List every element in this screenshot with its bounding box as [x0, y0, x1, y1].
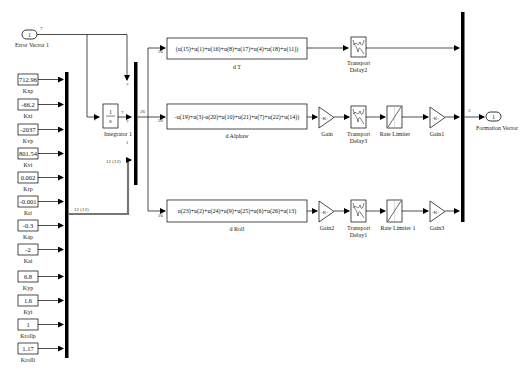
svg-text:-2: -2 [25, 246, 30, 253]
svg-text:801.54: 801.54 [19, 150, 38, 157]
svg-text:26: 26 [158, 118, 164, 123]
svg-text:-K-: -K- [432, 210, 439, 215]
svg-text:-66.2: -66.2 [21, 101, 35, 108]
constants-column: 712.96 Kxp -66.2 Kxi -2037 Kvp 801.54 Kv… [18, 74, 63, 363]
svg-text:0.002: 0.002 [21, 174, 36, 181]
svg-text:-2037: -2037 [20, 126, 36, 133]
svg-text:Krolli: Krolli [21, 357, 36, 363]
signal-line[interactable] [87, 35, 99, 118]
svg-text:1: 1 [26, 321, 29, 328]
transport-delay-2[interactable]: Transport Delay2 [347, 37, 370, 73]
outport-formation-vector[interactable]: 1 Formation Vector [476, 112, 518, 131]
svg-text:(u(15)+u(1)+u(16)+u(8)+u(17)+u: (u(15)+u(1)+u(16)+u(8)+u(17)+u(4)+u(18)+… [176, 46, 298, 53]
svg-text:3: 3 [468, 108, 471, 113]
svg-text:26: 26 [158, 49, 164, 54]
svg-text:7: 7 [126, 82, 129, 87]
svg-text:Krollp: Krollp [20, 333, 36, 339]
constant-block-kxi[interactable]: -66.2 Kxi [18, 99, 38, 119]
constant-block-krolli[interactable]: 1.17 Krolli [18, 343, 38, 363]
svg-text:1: 1 [28, 32, 31, 38]
svg-text:1: 1 [109, 109, 112, 115]
svg-text:Gain2: Gain2 [320, 225, 335, 231]
fcn-block-droll[interactable]: u(23)+u(2)+u(24)+u(9)+u(25)+u(6)+u(26)+u… [167, 200, 307, 232]
signal-width-label: 7 [40, 26, 43, 31]
gain3-block[interactable]: -K- Gain3 [430, 201, 445, 231]
svg-text:-u(19)+u(3)-u(20)+u(10)+u(21)+: -u(19)+u(3)-u(20)+u(10)+u(21)+u(7)+u(22)… [175, 114, 299, 121]
svg-text:7: 7 [121, 110, 124, 115]
svg-text:Gain3: Gain3 [430, 225, 445, 231]
constant-block-kvi[interactable]: 801.54 Kvi [18, 148, 38, 168]
mux-constants[interactable] [65, 72, 69, 358]
svg-text:Kxp: Kxp [23, 88, 33, 94]
svg-text:6.8: 6.8 [24, 273, 32, 280]
svg-text:Krp: Krp [23, 186, 32, 192]
gain1-block[interactable]: -K- Gain1 [430, 107, 445, 137]
inport-error-vector[interactable]: 1 Error Vector 1 [15, 30, 49, 48]
svg-text:Kvp: Kvp [23, 138, 33, 144]
signal-line[interactable] [148, 117, 165, 211]
svg-text:Kyi: Kyi [24, 309, 33, 315]
outport-label: Formation Vector [476, 125, 518, 131]
svg-text:-0.001: -0.001 [20, 198, 37, 205]
signal-line[interactable] [37, 35, 127, 81]
constant-block-kai[interactable]: -2 Kai [18, 244, 38, 264]
svg-text:-K-: -K- [432, 116, 439, 121]
transport-delay-3[interactable]: Transport Delay3 [347, 106, 370, 144]
svg-text:1.6: 1.6 [24, 297, 33, 304]
svg-text:12 (12): 12 (12) [74, 207, 89, 212]
integrator-label: Integrator 1 [104, 131, 132, 137]
svg-text:26: 26 [158, 213, 164, 218]
svg-text:Delay3: Delay3 [350, 138, 367, 144]
constant-block-kyp[interactable]: 6.8 Kyp [18, 271, 38, 291]
svg-text:Kai: Kai [24, 258, 33, 264]
constant-block-kvp[interactable]: -2037 Kvp [18, 124, 38, 144]
svg-text:7: 7 [94, 117, 97, 122]
gain2-block[interactable]: -K- Gain2 [319, 201, 334, 231]
gain-block[interactable]: -K- Gain [319, 107, 334, 137]
rate-limiter-1[interactable]: Rate Limiter 1 [381, 200, 416, 231]
constant-block-kyi[interactable]: 1.6 Kyi [18, 295, 38, 315]
svg-text:Kri: Kri [24, 210, 32, 216]
svg-text:Transport: Transport [347, 60, 370, 66]
fcn-block-dt[interactable]: (u(15)+u(1)+u(16)+u(8)+u(17)+u(4)+u(18)+… [167, 38, 307, 70]
fcn-label: d T [233, 64, 241, 70]
svg-text:Transport: Transport [347, 131, 370, 137]
svg-text:-0.3: -0.3 [23, 222, 33, 229]
svg-text:u(23)+u(2)+u(24)+u(9)+u(25)+u(: u(23)+u(2)+u(24)+u(9)+u(25)+u(6)+u(26)+u… [178, 208, 297, 215]
simulink-diagram: 1 Error Vector 1 7 7 7 1 s Integrator 1 … [0, 0, 524, 378]
svg-text:Kyp: Kyp [23, 285, 33, 291]
svg-text:Kap: Kap [23, 234, 33, 240]
svg-text:712.96: 712.96 [19, 76, 38, 83]
constant-block-kxp[interactable]: 712.96 Kxp [18, 74, 38, 94]
transport-delay-1[interactable]: Transport Delay1 [347, 200, 370, 238]
mux-output[interactable] [461, 12, 465, 222]
fcn-label: d Alphaw [225, 133, 249, 139]
svg-text:Gain1: Gain1 [430, 131, 445, 137]
rate-limiter[interactable]: Rate Limiter [380, 106, 411, 137]
svg-text:26: 26 [140, 109, 146, 114]
signal-line[interactable] [148, 48, 165, 117]
svg-text:Gain: Gain [321, 131, 333, 137]
svg-text:Rate Limiter 1: Rate Limiter 1 [381, 225, 416, 231]
bus-line[interactable] [69, 160, 132, 214]
constant-block-krp[interactable]: 0.002 Krp [18, 172, 38, 192]
fcn-block-dalphaw[interactable]: -u(19)+u(3)-u(20)+u(10)+u(21)+u(7)+u(22)… [167, 104, 307, 139]
svg-text:1: 1 [126, 140, 129, 145]
svg-text:Kxi: Kxi [24, 113, 33, 119]
svg-text:-K-: -K- [321, 210, 328, 215]
svg-text:7: 7 [126, 119, 129, 124]
svg-text:Delay2: Delay2 [350, 67, 367, 73]
mux-main[interactable] [134, 62, 138, 185]
constant-block-kap[interactable]: -0.3 Kap [18, 220, 38, 240]
constant-block-krollp[interactable]: 1 Krollp [18, 319, 38, 339]
svg-text:Kvi: Kvi [24, 162, 33, 168]
svg-text:12 (12): 12 (12) [106, 159, 121, 164]
svg-text:1: 1 [492, 114, 495, 120]
inport-label: Error Vector 1 [15, 42, 49, 48]
svg-text:Delay1: Delay1 [350, 232, 367, 238]
svg-text:-K-: -K- [321, 116, 328, 121]
svg-text:Rate Limiter: Rate Limiter [380, 131, 411, 137]
constant-block-kri[interactable]: -0.001 Kri [18, 196, 38, 216]
fcn-label: d Roll [230, 226, 245, 232]
svg-text:1.17: 1.17 [22, 345, 34, 352]
